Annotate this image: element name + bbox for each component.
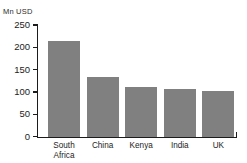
y-axis-tick-label: 200	[14, 42, 30, 52]
y-axis-tick	[33, 24, 38, 25]
bar	[202, 91, 234, 137]
y-axis-tick-label: 100	[14, 87, 30, 97]
y-axis-tick-label: 250	[14, 20, 30, 30]
bar-chart: Mn USD 050100150200250 South AfricaChina…	[0, 0, 247, 163]
bar	[125, 87, 157, 137]
x-axis-tick-label: UK	[194, 141, 242, 151]
y-axis-line	[37, 25, 38, 137]
y-axis-tick	[33, 114, 38, 115]
y-axis-tick	[33, 91, 38, 92]
y-axis-tick	[33, 136, 38, 137]
bar	[48, 41, 80, 137]
y-axis-tick-label: 0	[25, 132, 30, 142]
y-axis-tick-label: 150	[14, 65, 30, 75]
bar	[87, 77, 119, 137]
bar	[164, 89, 196, 137]
plot-area: 050100150200250 South AfricaChinaKenyaIn…	[0, 0, 247, 163]
y-axis-tick	[33, 69, 38, 70]
y-axis-tick	[33, 47, 38, 48]
y-axis-tick-label: 50	[19, 109, 30, 119]
x-axis-end-cap	[236, 132, 237, 137]
